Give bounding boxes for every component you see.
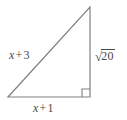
hypotenuse-constant: 3 xyxy=(24,48,30,62)
base-operator: + xyxy=(39,101,48,115)
radicand-value: 20 xyxy=(101,49,114,63)
right-triangle-figure: x+3 √20 x+1 xyxy=(0,0,127,120)
hypotenuse-variable: x xyxy=(9,48,15,62)
square-root-icon: √20 xyxy=(95,49,115,63)
right-angle-marker-icon xyxy=(82,89,90,97)
base-leg-label: x+1 xyxy=(33,102,54,114)
hypotenuse-label: x+3 xyxy=(9,49,30,61)
base-variable: x xyxy=(33,101,39,115)
vertical-leg-label: √20 xyxy=(95,49,115,63)
base-constant: 1 xyxy=(48,101,54,115)
hypotenuse-operator: + xyxy=(15,48,24,62)
